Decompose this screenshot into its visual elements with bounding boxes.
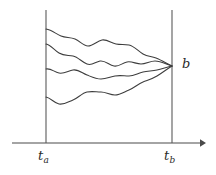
sample-path-1 — [46, 29, 172, 66]
endpoint-label-b: b — [182, 57, 190, 70]
paths-diagram-svg — [0, 0, 216, 175]
tick-label-t-b-base: t — [164, 148, 169, 163]
sample-path-4 — [46, 66, 172, 104]
tick-label-t-a: ta — [38, 149, 49, 165]
tick-label-t-b-subscript: b — [170, 155, 176, 165]
axis-arrow-icon — [200, 139, 206, 147]
figure-container: ta tb b — [0, 0, 216, 175]
tick-label-t-a-subscript: a — [44, 155, 49, 165]
sample-path-2 — [46, 44, 172, 66]
sample-path-3 — [46, 66, 172, 79]
tick-label-t-a-base: t — [38, 148, 43, 163]
tick-label-t-b: tb — [164, 149, 175, 165]
